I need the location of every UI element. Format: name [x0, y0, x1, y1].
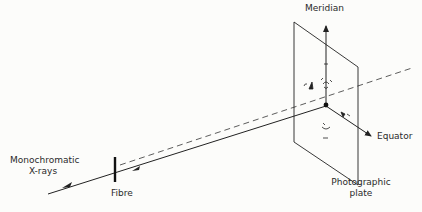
meridian-label: Meridian — [305, 3, 344, 14]
plate-label-line1: Photographic — [326, 177, 396, 188]
fibre-label: Fibre — [111, 188, 133, 199]
plate-label: Photographic plate — [326, 177, 396, 199]
source-label: Monochromatic X-rays — [10, 155, 76, 177]
diffraction-spots — [304, 64, 350, 138]
plate-label-line2: plate — [326, 188, 396, 199]
origin-point — [324, 103, 329, 108]
source-label-line1: Monochromatic — [10, 155, 76, 166]
source-label-line2: X-rays — [10, 166, 76, 177]
dashed-beam — [120, 68, 412, 165]
equator-axis — [326, 106, 371, 136]
incident-beam — [48, 106, 326, 194]
equator-label: Equator — [377, 131, 412, 142]
